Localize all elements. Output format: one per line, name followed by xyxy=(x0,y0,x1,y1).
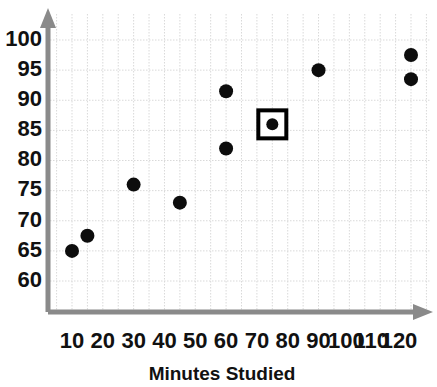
data-point-1 xyxy=(80,229,94,243)
plot-canvas: 6065707580859095100 10203040506070809010… xyxy=(0,0,437,387)
data-point-7 xyxy=(312,63,326,77)
x-tick-label-40: 40 xyxy=(152,328,176,353)
y-tick-label-100: 100 xyxy=(5,26,42,51)
y-tick-label-60: 60 xyxy=(18,267,42,292)
x-tick-labels: 102030405060708090100110120 xyxy=(60,328,418,353)
x-tick-label-120: 120 xyxy=(381,328,418,353)
x-tick-label-20: 20 xyxy=(91,328,115,353)
x-tick-label-80: 80 xyxy=(275,328,299,353)
y-tick-label-85: 85 xyxy=(18,116,42,141)
data-point-0 xyxy=(65,244,79,258)
x-axis-arrowhead xyxy=(413,304,433,320)
y-tick-label-90: 90 xyxy=(18,86,42,111)
gridlines-horizontal xyxy=(50,40,430,311)
data-point-3 xyxy=(173,196,187,210)
data-point-highlighted xyxy=(266,118,278,130)
data-point-5 xyxy=(219,141,233,155)
y-axis-arrowhead xyxy=(40,8,56,28)
x-tick-label-70: 70 xyxy=(245,328,269,353)
data-point-9 xyxy=(404,72,418,86)
data-point-4 xyxy=(219,84,233,98)
gridlines-vertical xyxy=(57,14,427,312)
x-tick-label-50: 50 xyxy=(183,328,207,353)
x-axis-title: Minutes Studied xyxy=(149,363,296,384)
y-tick-label-75: 75 xyxy=(18,176,42,201)
y-tick-label-70: 70 xyxy=(18,207,42,232)
data-point-2 xyxy=(127,178,141,192)
x-tick-label-30: 30 xyxy=(121,328,145,353)
y-tick-labels: 6065707580859095100 xyxy=(5,26,42,292)
x-tick-label-10: 10 xyxy=(60,328,84,353)
y-tick-label-95: 95 xyxy=(18,56,42,81)
x-axis xyxy=(48,304,433,320)
data-point-8 xyxy=(404,48,418,62)
y-tick-label-80: 80 xyxy=(18,146,42,171)
scatter-plot-figure: 6065707580859095100 10203040506070809010… xyxy=(0,0,437,387)
x-tick-label-60: 60 xyxy=(214,328,238,353)
y-tick-label-65: 65 xyxy=(18,237,42,262)
